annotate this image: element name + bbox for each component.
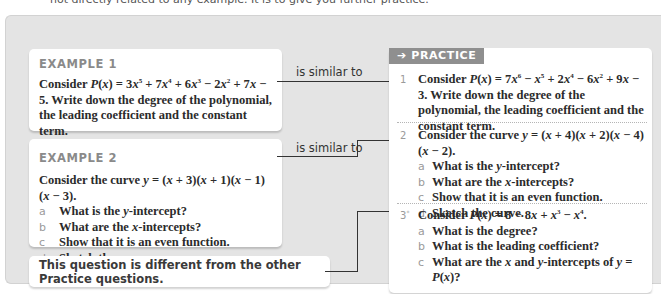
- part-text: Show that it is an even function.: [59, 235, 230, 251]
- connector-line-2b: [357, 140, 358, 157]
- divider: [397, 122, 647, 123]
- examples-practice-panel: EXAMPLE 1 Consider P(x) = 3x5 + 7x4 + 6x…: [5, 15, 661, 284]
- part-label: b: [39, 220, 59, 236]
- practice-item-2-question: Consider the curve y = (x + 4)(x + 2)(x …: [418, 128, 647, 159]
- practice-item-1: 1 Consider P(x) = 7x6 − x5 + 2x4 − 6x2 +…: [397, 72, 647, 134]
- question-part: cWhat are the x and y-intercepts of y = …: [418, 255, 647, 286]
- part-text: What is the leading coefficient?: [432, 239, 599, 255]
- practice-item-number: 3*: [397, 208, 418, 286]
- example-1-title: EXAMPLE 1: [39, 57, 272, 71]
- part-label: b: [418, 175, 432, 191]
- part-label: b: [418, 239, 432, 255]
- example-1-question: Consider P(x) = 3x5 + 7x4 + 6x3 − 2x2 + …: [39, 77, 272, 139]
- part-text: What is the degree?: [432, 224, 538, 240]
- practice-card: ➔ PRACTICE 1 Consider P(x) = 7x6 − x5 + …: [389, 48, 652, 293]
- question-part: aWhat is the y-intercept?: [39, 204, 272, 220]
- challenge-mark: *: [406, 209, 409, 216]
- example-2-question: Consider the curve y = (x + 3)(x + 1)(x …: [39, 173, 272, 204]
- example-1-card: EXAMPLE 1 Consider P(x) = 3x5 + 7x4 + 6x…: [29, 49, 282, 131]
- example-2-card: EXAMPLE 2 Consider the curve y = (x + 3)…: [29, 139, 282, 247]
- part-label: c: [39, 235, 59, 251]
- part-label: c: [418, 255, 432, 286]
- part-label: a: [418, 159, 432, 175]
- practice-badge: ➔ PRACTICE: [389, 48, 484, 64]
- question-part: aWhat is the y-intercept?: [418, 159, 647, 175]
- connector-line-2c: [357, 140, 392, 141]
- part-text: What is the y-intercept?: [59, 204, 187, 220]
- similar-label-1: is similar to: [296, 65, 363, 79]
- connector-line-3a: [325, 271, 358, 272]
- practice-item-number: 1: [397, 72, 418, 134]
- question-part: bWhat is the leading coefficient?: [418, 239, 647, 255]
- part-text: What is the y-intercept?: [432, 159, 560, 175]
- divider: [397, 203, 647, 204]
- question-part: bWhat are the x-intercepts?: [39, 220, 272, 236]
- different-question-note: This question is different from the othe…: [29, 256, 330, 287]
- practice-item-3-question: Consider P(x) = 8 − 8x + x3 − x4.: [418, 208, 647, 224]
- example-2-title: EXAMPLE 2: [39, 151, 272, 165]
- practice-item-3: 3* Consider P(x) = 8 − 8x + x3 − x4. aWh…: [397, 208, 647, 286]
- part-text: What are the x-intercepts?: [432, 175, 574, 191]
- intro-text: not directly related to any example. It …: [50, 0, 650, 6]
- question-part: bWhat are the x-intercepts?: [418, 175, 647, 191]
- part-text: What are the x-intercepts?: [59, 220, 201, 236]
- part-label: a: [39, 204, 59, 220]
- part-text: What are the x and y-intercepts of y = P…: [432, 255, 647, 286]
- connector-line-3b: [357, 211, 358, 272]
- part-label: a: [418, 224, 432, 240]
- question-part: aWhat is the degree?: [418, 224, 647, 240]
- question-part: cShow that it is an even function.: [39, 235, 272, 251]
- practice-badge-label: PRACTICE: [411, 49, 476, 62]
- arrow-right-icon: ➔: [397, 49, 407, 62]
- practice-item-1-question: Consider P(x) = 7x6 − x5 + 2x4 − 6x2 + 9…: [418, 72, 647, 134]
- practice-item-3-parts: aWhat is the degree?bWhat is the leading…: [418, 224, 647, 286]
- connector-line-2a: [277, 156, 357, 157]
- connector-line-3c: [357, 211, 392, 212]
- similar-label-2: is similar to: [296, 141, 363, 155]
- connector-line-1: [277, 81, 392, 82]
